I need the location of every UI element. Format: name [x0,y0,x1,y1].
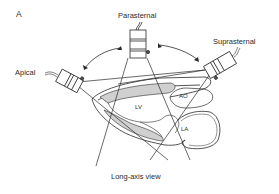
apical-probe [45,67,85,93]
figure-caption: Long-axis view [111,172,161,181]
label-lv: LV [135,104,142,110]
label-ao: AO [179,93,188,99]
parasternal-probe [130,22,150,58]
beam-lines [78,58,210,166]
label-la: LA [181,126,188,132]
suprasternal-probe [204,47,240,82]
panel-label: A [16,9,22,19]
label-apical: Apical [15,68,35,77]
label-parasternal: Parasternal [118,11,156,20]
aorta-outline [170,88,213,108]
echo-diagram [0,0,279,194]
label-suprasternal: Suprasternal [213,37,256,46]
lv-anterior-wall [100,83,175,103]
arrowhead-icon [83,65,88,70]
